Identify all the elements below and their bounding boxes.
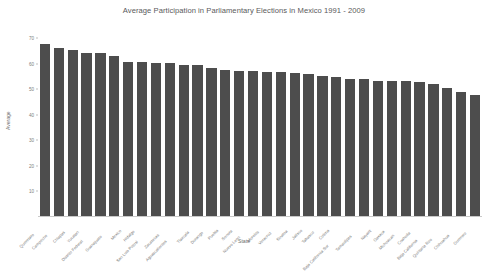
bar-slot [440, 33, 454, 217]
bar-slot [371, 33, 385, 217]
bar-slot [149, 33, 163, 217]
bar-slot [329, 33, 343, 217]
bar [137, 62, 147, 217]
bar [40, 44, 50, 217]
bar-slot [399, 33, 413, 217]
bar-slot [121, 33, 135, 217]
x-tick-labels: QueretaroCampecheChiapasYucatanDistrito … [38, 219, 482, 255]
y-tick-label: 50 [29, 87, 34, 92]
bar-slot [232, 33, 246, 217]
y-tick-label: 60 [29, 61, 34, 66]
bar-slot [454, 33, 468, 217]
y-tick-label: 70 [29, 36, 34, 41]
bar [165, 63, 175, 217]
bar [317, 76, 327, 217]
bar-slot [38, 33, 52, 217]
bar-slot [246, 33, 260, 217]
bar-slot [52, 33, 66, 217]
bar-slot [191, 33, 205, 217]
x-tick-label: Baja California Sur [301, 243, 329, 271]
bar-slot [260, 33, 274, 217]
bar [276, 72, 286, 217]
bar [442, 88, 452, 217]
bar-slot [427, 33, 441, 217]
bar-slot [66, 33, 80, 217]
bar [303, 74, 313, 217]
bar-slot [135, 33, 149, 217]
bar [373, 81, 383, 217]
plot-area [38, 33, 482, 217]
bar [234, 71, 244, 217]
bar-slot [357, 33, 371, 217]
bar-slot [107, 33, 121, 217]
bar [68, 50, 78, 217]
bar [179, 65, 189, 217]
bar-slot [468, 33, 482, 217]
bar-slot [163, 33, 177, 217]
bar-slot [177, 33, 191, 217]
bar [456, 92, 466, 217]
x-axis-label: State [0, 238, 488, 244]
y-tick-label: 30 [29, 138, 34, 143]
bar [345, 79, 355, 218]
bar-slot [385, 33, 399, 217]
bar-slot [288, 33, 302, 217]
bar [54, 48, 64, 217]
bar [414, 82, 424, 217]
bar-slot [274, 33, 288, 217]
bar-slot [343, 33, 357, 217]
bar-slot [302, 33, 316, 217]
bar [151, 63, 161, 217]
bar [470, 95, 480, 217]
bar-slot [316, 33, 330, 217]
bar-slot [218, 33, 232, 217]
bar-slot [413, 33, 427, 217]
bar [109, 56, 119, 217]
bar [428, 84, 438, 217]
x-axis-line [38, 216, 482, 217]
bar [220, 70, 230, 217]
bar [262, 72, 272, 217]
bar [290, 73, 300, 217]
bar [387, 81, 397, 217]
bar [248, 71, 258, 217]
y-tick-label: 10 [29, 189, 34, 194]
y-tick-label: 40 [29, 112, 34, 117]
bar [331, 77, 341, 217]
bar-series [38, 33, 482, 217]
bar [206, 68, 216, 217]
bar-slot [94, 33, 108, 217]
bar [81, 53, 91, 217]
bar [123, 62, 133, 217]
bar-slot [80, 33, 94, 217]
chart-title: Average Participation in Parliamentary E… [0, 6, 488, 15]
bar-slot [205, 33, 219, 217]
bar [192, 65, 202, 217]
y-axis-label: Average [5, 111, 11, 130]
bar [359, 79, 369, 217]
bar [95, 53, 105, 217]
y-tick-label: 20 [29, 163, 34, 168]
bar [401, 81, 411, 217]
